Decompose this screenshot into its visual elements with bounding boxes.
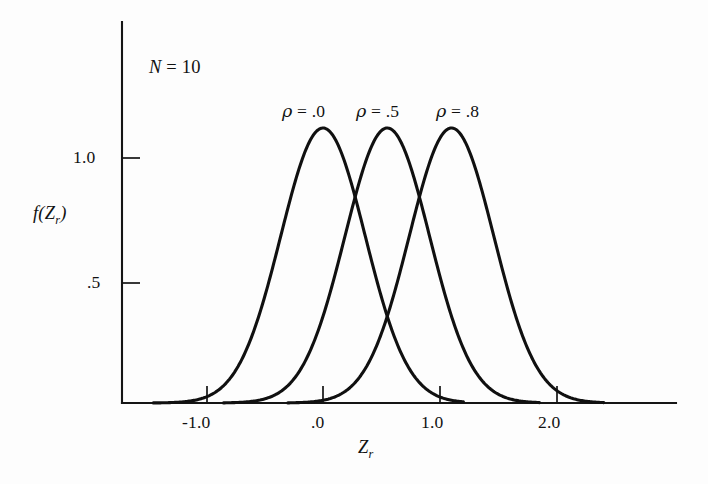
rho-equals: = — [293, 101, 312, 121]
x-axis-title-main: Z — [358, 437, 369, 457]
sample-size-symbol: N — [149, 57, 162, 77]
density-curve--.5 — [224, 128, 540, 403]
sample-size-value: 10 — [182, 57, 201, 77]
sample-size-equals: = — [162, 57, 182, 77]
y-axis-title: f(Zr) — [33, 203, 67, 228]
density-curve--.8 — [288, 128, 604, 403]
density-plot-svg — [0, 0, 708, 484]
x-tick-label-2.0: 2.0 — [538, 412, 560, 433]
x-axis-title: Zr — [358, 437, 373, 462]
curve-label-rho-5: ρ = .5 — [356, 101, 399, 122]
density-curve--.0 — [153, 128, 463, 403]
rho-symbol: ρ — [356, 101, 367, 121]
rho-value: .0 — [312, 101, 326, 121]
y-axis-title-close: ) — [60, 203, 66, 223]
curve-label-rho-0: ρ = .0 — [282, 101, 325, 122]
x-tick-label-1.0: 1.0 — [421, 412, 443, 433]
sample-size-annotation: N = 10 — [149, 57, 201, 78]
curve-label-rho-8: ρ = .8 — [436, 101, 479, 122]
curve-layer — [153, 128, 603, 403]
y-tick-label-1.0: 1.0 — [73, 147, 95, 168]
rho-equals: = — [447, 101, 466, 121]
x-axis-title-subscript: r — [369, 447, 374, 461]
x-tick-label--1.0: -1.0 — [182, 412, 211, 433]
rho-symbol: ρ — [282, 101, 293, 121]
x-tick-label-0.0: .0 — [311, 412, 325, 433]
y-tick-label-0.5: .5 — [87, 272, 101, 293]
rho-symbol: ρ — [436, 101, 447, 121]
y-axis-title-main: f(Z — [33, 203, 55, 223]
rho-equals: = — [367, 101, 386, 121]
rho-value: .8 — [466, 101, 480, 121]
figure-container: 1.0 .5 -1.0 .0 1.0 2.0 N = 10 f(Zr) Zr ρ… — [0, 0, 708, 484]
rho-value: .5 — [386, 101, 400, 121]
